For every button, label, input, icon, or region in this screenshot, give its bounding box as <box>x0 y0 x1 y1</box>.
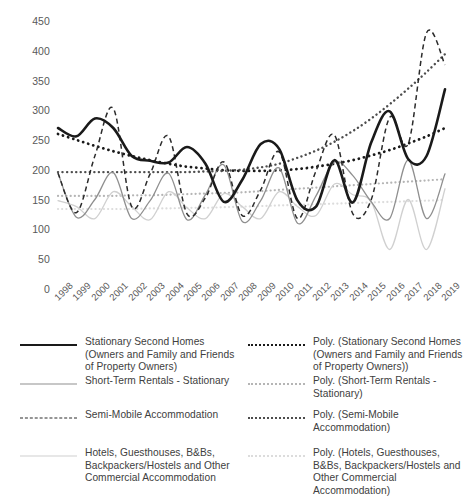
legend-label: Poly. (Semi-Mobile Accommodation) <box>313 409 469 434</box>
trendline-3 <box>58 54 445 172</box>
legend-label: Poly. (Stationary Second Homes (Owners a… <box>313 336 469 374</box>
legend-label: Short-Term Rentals - Stationary <box>85 375 229 388</box>
chart-page: 450400350300250200150100500 199819992000… <box>0 0 469 504</box>
data-series-3 <box>58 30 445 219</box>
legend-item[interactable]: Poly. (Semi-Mobile Accommodation) <box>248 409 469 434</box>
trendline-1 <box>58 128 445 171</box>
legend-swatch-solid-light-gray-icon <box>20 450 77 462</box>
legend-label: Hotels, Guesthouses, B&Bs, Backpackers/H… <box>85 447 242 485</box>
legend-item[interactable]: Poly. (Hotels, Guesthouses, B&Bs, Backpa… <box>248 447 469 497</box>
legend-label: Stationary Second Homes (Owners and Fami… <box>85 336 242 374</box>
legend-swatch-dotted-light-gray-icon <box>248 450 305 462</box>
legend-label: Poly. (Hotels, Guesthouses, B&Bs, Backpa… <box>313 447 469 497</box>
legend-swatch-dotted-gray-icon <box>248 378 305 390</box>
legend-swatch-dotted-dark-gray-icon <box>248 412 305 424</box>
chart-plot-area: 450400350300250200150100500 199819992000… <box>0 0 469 300</box>
trendline-4 <box>58 200 445 209</box>
legend-swatch-dashed-black-icon <box>20 412 77 424</box>
legend-label: Semi-Mobile Accommodation <box>85 409 218 422</box>
legend-item[interactable]: Poly. (Stationary Second Homes (Owners a… <box>248 336 469 374</box>
legend-item[interactable]: Short-Term Rentals - Stationary <box>20 375 242 390</box>
legend-swatch-dotted-black-icon <box>248 339 305 351</box>
legend-label: Poly. (Short-Term Rentals - Stationary) <box>313 375 469 400</box>
legend-item[interactable]: Hotels, Guesthouses, B&Bs, Backpackers/H… <box>20 447 242 485</box>
legend-item[interactable]: Stationary Second Homes (Owners and Fami… <box>20 336 242 374</box>
legend-item[interactable]: Poly. (Short-Term Rentals - Stationary) <box>248 375 469 400</box>
chart-legend: Stationary Second Homes (Owners and Fami… <box>0 330 469 504</box>
trendline-2 <box>58 179 445 196</box>
line-chart-svg <box>0 0 469 300</box>
legend-swatch-solid-thick-black-icon <box>20 339 77 351</box>
legend-swatch-solid-gray-icon <box>20 378 77 390</box>
legend-item[interactable]: Semi-Mobile Accommodation <box>20 409 242 424</box>
